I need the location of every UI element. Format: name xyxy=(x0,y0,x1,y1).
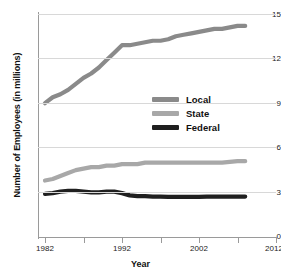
gridline xyxy=(38,147,276,148)
x-axis-tick xyxy=(161,238,162,243)
legend-item-local: Local xyxy=(152,92,220,106)
x-axis-tick xyxy=(84,238,85,243)
legend-label-federal: Federal xyxy=(186,122,220,133)
series-line-state xyxy=(45,161,245,180)
gridline xyxy=(38,192,276,193)
legend-swatch-state xyxy=(152,111,179,116)
y-axis-title: Number of Employees (in millions) xyxy=(12,27,22,223)
x-axis-tick xyxy=(276,238,277,243)
x-axis-tick-label: 2012 xyxy=(254,244,281,253)
x-axis-tick xyxy=(238,238,239,243)
x-axis-tick xyxy=(122,238,123,243)
x-axis-tick-label: 1992 xyxy=(102,244,142,253)
legend-label-state: State xyxy=(186,108,209,119)
legend-label-local: Local xyxy=(186,94,211,105)
legend-item-state: State xyxy=(152,106,220,120)
x-axis-tick-label: 1982 xyxy=(25,244,65,253)
legend-swatch-local xyxy=(152,97,179,102)
legend-swatch-federal xyxy=(152,125,179,130)
x-axis-title: Year xyxy=(0,259,281,269)
gridline xyxy=(38,58,276,59)
x-axis-line xyxy=(38,237,277,238)
x-axis-tick-label: 2002 xyxy=(179,244,219,253)
legend-item-federal: Federal xyxy=(152,120,220,134)
gridline xyxy=(38,14,276,15)
line-chart: Number of Employees (in millions) 15 12 … xyxy=(0,0,281,277)
x-axis-tick xyxy=(199,238,200,243)
x-axis-tick xyxy=(45,238,46,243)
legend: Local State Federal xyxy=(152,92,220,134)
